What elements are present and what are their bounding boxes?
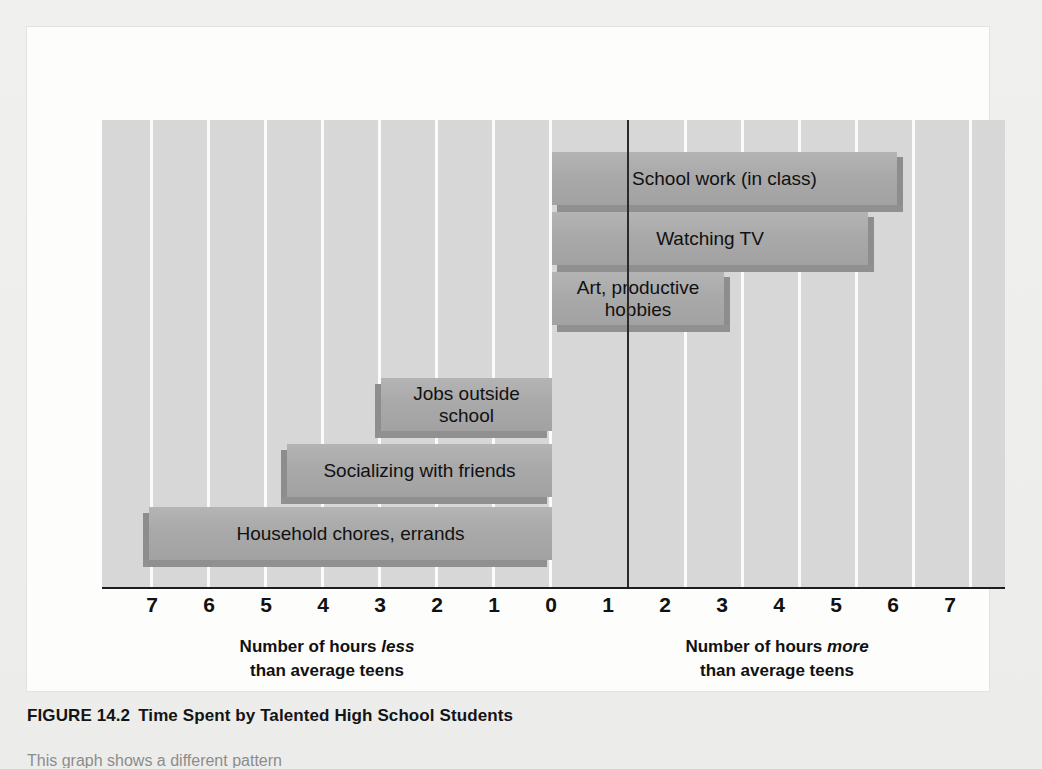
bar-watching-tv: Watching TV xyxy=(552,212,868,265)
x-axis-caption-right: Number of hours more than average teens xyxy=(597,635,957,683)
tick-label: 2 xyxy=(645,593,685,617)
figure-number: FIGURE 14.2 xyxy=(27,706,130,725)
tick-label: 1 xyxy=(588,593,628,617)
tick-label: 2 xyxy=(417,593,457,617)
tick-label: 7 xyxy=(930,593,970,617)
figure-title: Time Spent by Talented High School Stude… xyxy=(138,706,513,725)
bar-shadow xyxy=(724,277,730,332)
x-axis-line xyxy=(102,587,1005,589)
chart-plot-area: School work (in class) Watching TV Art, … xyxy=(102,120,1005,587)
bar-shadow xyxy=(557,265,874,272)
tick-label: 1 xyxy=(474,593,514,617)
caption-right-emphasis: more xyxy=(827,637,869,656)
bar-shadow xyxy=(143,560,547,567)
tick-label: 4 xyxy=(759,593,799,617)
zero-axis-line xyxy=(627,120,629,587)
caption-right-line2: than average teens xyxy=(700,661,854,680)
caption-left-prefix: Number of hours xyxy=(240,637,382,656)
bar-label: Socializing with friends xyxy=(287,460,552,482)
figure-panel: School work (in class) Watching TV Art, … xyxy=(27,27,989,691)
x-axis-caption-left: Number of hours less than average teens xyxy=(147,635,507,683)
tick-label: 0 xyxy=(531,593,571,617)
bar-shadow xyxy=(557,325,730,332)
bar-label: School work (in class) xyxy=(552,168,897,190)
tick-label: 7 xyxy=(132,593,172,617)
figure-page: School work (in class) Watching TV Art, … xyxy=(0,0,1042,769)
bar-jobs-outside-school: Jobs outside school xyxy=(381,378,552,431)
bar-household-chores-errands: Household chores, errands xyxy=(149,507,552,560)
gridline xyxy=(969,120,972,587)
bar-art-productive-hobbies: Art, productive hobbies xyxy=(552,272,724,325)
gridline xyxy=(912,120,915,587)
bar-school-work: School work (in class) xyxy=(552,152,897,205)
bar-shadow xyxy=(375,431,547,438)
bar-shadow xyxy=(897,157,903,212)
bar-label: Jobs outside school xyxy=(381,383,552,427)
tick-label: 3 xyxy=(360,593,400,617)
tick-label: 4 xyxy=(303,593,343,617)
tick-label: 3 xyxy=(702,593,742,617)
tick-label: 5 xyxy=(816,593,856,617)
bar-label: Household chores, errands xyxy=(149,523,552,545)
caption-left-emphasis: less xyxy=(381,637,414,656)
bar-socializing-with-friends: Socializing with friends xyxy=(287,444,552,497)
tick-label: 6 xyxy=(189,593,229,617)
x-axis-tick-labels: 7 6 5 4 3 2 1 0 1 2 3 4 5 6 7 xyxy=(102,593,1005,625)
caption-left-line2: than average teens xyxy=(250,661,404,680)
bar-shadow xyxy=(868,217,874,272)
tick-label: 6 xyxy=(873,593,913,617)
bar-shadow xyxy=(281,497,547,504)
tick-label: 5 xyxy=(246,593,286,617)
bar-label: Art, productive hobbies xyxy=(552,277,724,321)
bar-shadow xyxy=(557,205,903,212)
figure-body-text: This graph shows a different pattern xyxy=(27,752,727,768)
figure-caption: FIGURE 14.2Time Spent by Talented High S… xyxy=(27,706,1017,726)
caption-right-prefix: Number of hours xyxy=(685,637,827,656)
bar-label: Watching TV xyxy=(552,228,868,250)
